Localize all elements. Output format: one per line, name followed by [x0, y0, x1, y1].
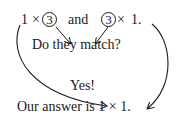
times-sign-right: × — [117, 13, 125, 27]
answer-text: Yes! — [70, 79, 95, 93]
question-text: Do they match? — [32, 38, 121, 52]
match-diagram: 1 × 3 and 3 × 1. Do they match? Yes! Our… — [0, 0, 177, 130]
right-factor: 1. — [131, 13, 142, 27]
times-sign-left: × — [32, 13, 40, 27]
conclusion-text: Our answer is 1 × 1. — [17, 100, 131, 114]
left-circled-factor: 3 — [42, 12, 57, 27]
left-factor: 1 — [21, 13, 28, 27]
conjunction: and — [68, 13, 88, 27]
curve-right-to-conclusion — [148, 24, 168, 108]
circled-3-left: 3 — [42, 12, 57, 27]
circled-3-right: 3 — [101, 12, 116, 27]
right-circled-factor: 3 — [101, 12, 116, 27]
